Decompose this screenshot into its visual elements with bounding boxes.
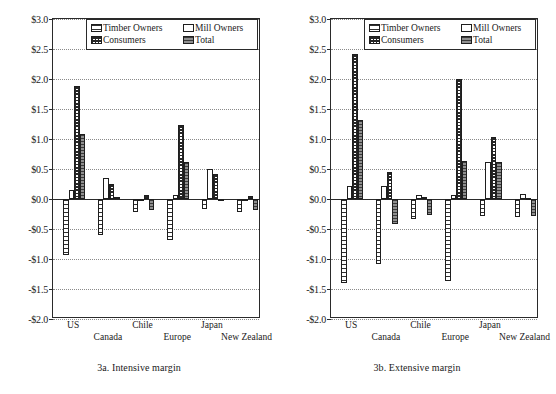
x-axis-category-label: Europe xyxy=(441,332,468,342)
legend-swatch-timber-icon xyxy=(91,24,102,32)
bar xyxy=(80,134,85,199)
legend-swatch-timber-icon xyxy=(369,24,380,32)
x-axis-category-label: Japan xyxy=(201,320,223,330)
legend-item-consumers: Consumers xyxy=(91,35,183,45)
bar xyxy=(167,199,172,240)
y-axis-tick-label: -$1.0 xyxy=(306,254,326,265)
y-axis-tick-mark xyxy=(327,169,331,170)
y-axis-tick-mark xyxy=(327,79,331,80)
legend-label: Mill Owners xyxy=(473,23,521,33)
legend-item-total: Total xyxy=(183,35,214,45)
legend-item-consumers: Consumers xyxy=(369,35,461,45)
gridline xyxy=(331,79,537,80)
plot-inner-3b: $3.0$2.5$2.0$1.5$1.0$0.5$0.0-$0.5-$1.0-$… xyxy=(331,19,537,317)
x-axis-category-label: US xyxy=(345,320,357,330)
legend-item-mill-owners: Mill Owners xyxy=(461,23,521,33)
bar xyxy=(184,162,189,199)
y-axis-tick-label: $2.5 xyxy=(31,44,48,55)
y-axis-tick-mark xyxy=(49,109,53,110)
y-axis-tick-label: $2.0 xyxy=(31,74,48,85)
gridline xyxy=(331,229,537,230)
gridline xyxy=(53,79,259,80)
bar xyxy=(149,199,154,210)
bar xyxy=(411,199,416,219)
legend-swatch-mill-icon xyxy=(461,24,472,32)
x-axis-category-label: New Zealand xyxy=(499,332,550,342)
y-axis-tick-label: $0.5 xyxy=(31,164,48,175)
bar xyxy=(138,199,143,201)
bar xyxy=(462,161,467,199)
y-axis-tick-mark xyxy=(49,169,53,170)
y-axis-tick-label: -$1.5 xyxy=(28,284,48,295)
y-axis-tick-label: $3.0 xyxy=(31,14,48,25)
gridline xyxy=(53,229,259,230)
gridline xyxy=(53,109,259,110)
y-axis-tick-label: $0.0 xyxy=(309,194,326,205)
bar xyxy=(213,174,218,199)
legend-row: Timber Owners Mill Owners xyxy=(91,22,254,34)
y-axis-tick-mark xyxy=(327,259,331,260)
zero-axis-line xyxy=(331,199,537,200)
bar xyxy=(98,199,103,235)
y-axis-tick-mark xyxy=(49,19,53,20)
gridline xyxy=(331,109,537,110)
bar xyxy=(63,199,68,255)
y-axis-tick-mark xyxy=(49,139,53,140)
panel-caption-3b: 3b. Extensive margin xyxy=(278,362,556,373)
legend-item-timber-owners: Timber Owners xyxy=(369,23,461,33)
panel-intensive-margin: $3.0$2.5$2.0$1.5$1.0$0.5$0.0-$0.5-$1.0-$… xyxy=(0,0,278,394)
bar xyxy=(531,199,536,216)
y-axis-tick-label: $1.0 xyxy=(309,134,326,145)
y-axis-tick-label: $2.5 xyxy=(309,44,326,55)
y-axis-tick-label: $1.5 xyxy=(31,104,48,115)
bar xyxy=(253,199,258,210)
legend-3a: Timber Owners Mill Owners Consumers Tota… xyxy=(86,19,258,50)
bar xyxy=(480,199,485,216)
legend-label: Total xyxy=(473,35,492,45)
bar xyxy=(202,199,207,209)
panel-caption-3a: 3a. Intensive margin xyxy=(0,362,278,373)
y-axis-tick-mark xyxy=(327,229,331,230)
gridline xyxy=(331,289,537,290)
x-axis-category-label: New Zealand xyxy=(221,332,272,342)
y-axis-tick-label: -$0.5 xyxy=(306,224,326,235)
y-axis-tick-label: $2.0 xyxy=(309,74,326,85)
bar xyxy=(358,120,363,199)
y-axis-tick-label: -$2.0 xyxy=(28,314,48,325)
y-axis-tick-mark xyxy=(49,79,53,80)
y-axis-tick-label: $1.0 xyxy=(31,134,48,145)
y-axis-tick-label: $1.5 xyxy=(309,104,326,115)
legend-label: Consumers xyxy=(381,35,424,45)
gridline xyxy=(331,259,537,260)
x-axis-category-label: Japan xyxy=(479,320,501,330)
y-axis-tick-mark xyxy=(327,139,331,140)
gridline xyxy=(53,289,259,290)
bar xyxy=(387,172,392,199)
y-axis-tick-label: -$0.5 xyxy=(28,224,48,235)
legend-swatch-total-icon xyxy=(183,36,194,44)
y-axis-tick-mark xyxy=(327,49,331,50)
bar xyxy=(218,199,223,201)
x-axis-category-label: Chile xyxy=(132,320,153,330)
bar xyxy=(515,199,520,217)
legend-label: Timber Owners xyxy=(103,23,163,33)
legend-label: Timber Owners xyxy=(381,23,441,33)
legend-3b: Timber Owners Mill Owners Consumers Tota… xyxy=(364,19,536,50)
bar xyxy=(392,199,397,224)
legend-item-mill-owners: Mill Owners xyxy=(183,23,243,33)
bar xyxy=(114,197,119,199)
x-axis-category-label: Canada xyxy=(94,332,123,342)
bar xyxy=(242,199,247,201)
figure-root: $3.0$2.5$2.0$1.5$1.0$0.5$0.0-$0.5-$1.0-$… xyxy=(0,0,556,394)
legend-swatch-total-icon xyxy=(461,36,472,44)
legend-row: Consumers Total xyxy=(369,34,532,46)
y-axis-tick-mark xyxy=(327,19,331,20)
legend-label: Mill Owners xyxy=(195,23,243,33)
legend-swatch-consumers-icon xyxy=(91,36,102,44)
x-axis-labels-3b: USCanadaChileEuropeJapanNew Zealand xyxy=(330,318,538,352)
legend-item-timber-owners: Timber Owners xyxy=(91,23,183,33)
plot-inner-3a: $3.0$2.5$2.0$1.5$1.0$0.5$0.0-$0.5-$1.0-$… xyxy=(53,19,259,317)
x-axis-category-label: Chile xyxy=(410,320,431,330)
legend-row: Consumers Total xyxy=(91,34,254,46)
y-axis-tick-mark xyxy=(49,289,53,290)
